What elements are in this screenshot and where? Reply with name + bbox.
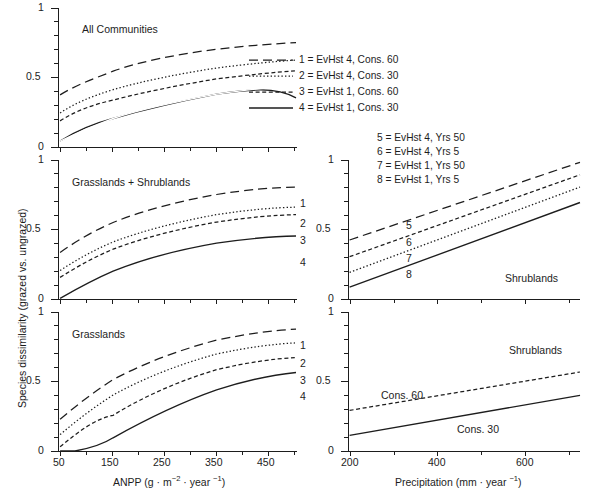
panel-bot-left-curves <box>60 329 296 451</box>
legend-item-6: 6 = EvHst 4, Yrs 5 <box>377 147 459 157</box>
x-axis-label-left: ANPP (g · m−2 · year −1) <box>113 475 225 487</box>
panel-title-all-communities: All Communities <box>82 24 158 35</box>
y-tick-midright-0: 0 <box>328 293 334 304</box>
curve-label-8: 8 <box>406 269 412 280</box>
figure-container: Species dissimilarity (grazed vs. ungraz… <box>0 0 598 495</box>
curve-label-7: 7 <box>406 253 412 264</box>
x-tick-50: 50 <box>53 457 65 468</box>
x-tick-350: 350 <box>205 457 223 468</box>
curve-4 <box>60 236 296 298</box>
y-tick-bot-0: 0 <box>38 445 44 456</box>
x-tick-450: 450 <box>257 457 275 468</box>
curve-4 <box>60 90 296 141</box>
panel-title-shrublands-bot: Shrublands <box>509 345 562 356</box>
xlabel-right-text: Precipitation (mm · year <box>395 476 509 488</box>
x-tick-200: 200 <box>341 457 359 468</box>
curve-4-fix <box>60 86 296 141</box>
y-tick-top-0.5: 0.5 <box>26 71 41 82</box>
x-tick-600: 600 <box>516 457 534 468</box>
y-tick-bot-0.5: 0.5 <box>26 375 41 386</box>
panel-mid-left-curves <box>60 187 296 298</box>
legend-item-8: 8 = EvHst 1, Yrs 5 <box>377 175 459 185</box>
xlabel-left-end: ) <box>222 476 226 488</box>
y-tick-top-0: 0 <box>38 141 44 152</box>
xlabel-left-mid: · year <box>180 476 213 488</box>
curve-label-mid-1: 1 <box>300 198 306 209</box>
y-tick-midright-0.5: 0.5 <box>316 223 331 234</box>
panel-title-grasslands: Grasslands <box>72 329 125 340</box>
curve-label-bot-3: 3 <box>300 375 306 386</box>
curve-3 <box>60 358 296 447</box>
curve-1 <box>60 187 296 252</box>
y-tick-bot-1: 1 <box>38 306 44 317</box>
x-tick-150: 150 <box>101 457 119 468</box>
legend-item-3: 3 = EvHst 1, Cons. 60 <box>299 87 398 97</box>
legend-item-2: 2 = EvHst 4, Cons. 30 <box>299 71 398 81</box>
curve-label-bot-1: 1 <box>300 340 306 351</box>
xlabel-left-sup2: −1 <box>213 474 222 483</box>
y-tick-midright-1: 1 <box>328 154 334 165</box>
x-tick-400: 400 <box>428 457 446 468</box>
curve-2 <box>60 343 296 435</box>
legend-item-1: 1 = EvHst 4, Cons. 60 <box>299 55 398 65</box>
curve-4 <box>60 373 296 452</box>
curve-3 <box>60 71 296 121</box>
label-cons-30: Cons. 30 <box>457 424 499 435</box>
y-tick-mid-0.5: 0.5 <box>26 223 41 234</box>
curve-label-bot-2: 2 <box>300 358 306 369</box>
xlabel-right-sup: −1 <box>509 474 518 483</box>
curve-label-bot-4: 4 <box>300 391 306 402</box>
curve-label-6: 6 <box>406 237 412 248</box>
legend-item-4: 4 = EvHst 1, Cons. 30 <box>299 103 398 113</box>
curve-7 <box>350 187 580 272</box>
y-tick-top-1: 1 <box>38 2 44 13</box>
curve-label-mid-4: 4 <box>300 257 306 268</box>
curve-label-5: 5 <box>406 220 412 231</box>
panel-title-shrublands-mid: Shrublands <box>505 273 558 284</box>
x-tick-250: 250 <box>153 457 171 468</box>
xlabel-left-text: ANPP (g · m <box>113 476 172 488</box>
legend-top-lines <box>249 60 293 108</box>
curve-label-mid-3: 3 <box>300 235 306 246</box>
panel-title-grasslands-shrublands: Grasslands + Shrublands <box>72 177 190 188</box>
legend-item-7: 7 = EvHst 1, Yrs 50 <box>377 161 465 171</box>
panel-top-left-curves <box>60 43 296 141</box>
curve-label-mid-2: 2 <box>300 218 306 229</box>
y-tick-botright-0: 0 <box>328 445 334 456</box>
y-tick-mid-1: 1 <box>38 154 44 165</box>
y-tick-botright-0.5: 0.5 <box>316 375 331 386</box>
legend-item-5: 5 = EvHst 4, Yrs 50 <box>377 133 465 143</box>
label-cons-60: Cons. 60 <box>381 390 423 401</box>
y-tick-mid-0: 0 <box>38 293 44 304</box>
xlabel-right-end: ) <box>518 476 522 488</box>
curve-3 <box>60 215 296 278</box>
x-axis-label-right: Precipitation (mm · year −1) <box>395 475 522 487</box>
curve-2 <box>60 60 296 113</box>
y-tick-botright-1: 1 <box>328 306 334 317</box>
curve-1 <box>60 43 296 95</box>
